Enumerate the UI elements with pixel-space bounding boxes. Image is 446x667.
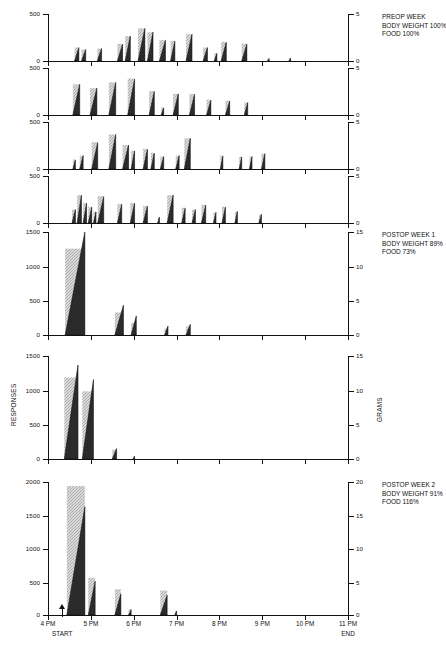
panel-annotation-line: FOOD 100%: [382, 30, 446, 39]
panel-annotation-line: FOOD 73%: [382, 248, 443, 257]
start-label: START: [37, 630, 87, 637]
panel-annotation-line: POSTOP WEEK 2: [382, 481, 443, 490]
record-traces: [0, 176, 442, 224]
x-axis-time-label: 5 PM: [71, 620, 111, 627]
panel-annotation-line: POSTOP WEEK 1: [382, 231, 443, 240]
panel-annotation: PREOP WEEKBODY WEIGHT 100%FOOD 100%: [382, 13, 446, 39]
right-axis-title: GRAMS: [376, 397, 383, 422]
chart-panel-preop-day-4: 050005: [0, 176, 442, 224]
record-traces: [0, 482, 442, 616]
x-axis-time-label: 11 PM: [328, 620, 368, 627]
x-axis-time-label: 6 PM: [114, 620, 154, 627]
end-label: END: [326, 630, 370, 637]
panel-annotation-line: BODY WEIGHT 100%: [382, 22, 446, 31]
record-traces: [0, 14, 442, 62]
start-arrow-head: [59, 604, 65, 609]
panel-annotation-line: PREOP WEEK: [382, 13, 446, 22]
x-axis-time-label: 9 PM: [242, 620, 282, 627]
panel-annotation: POSTOP WEEK 2BODY WEIGHT 91%FOOD 116%: [382, 481, 443, 507]
record-traces: [0, 122, 442, 170]
panel-annotation-line: BODY WEIGHT 89%: [382, 240, 443, 249]
left-axis-title: RESPONSES: [10, 384, 17, 426]
chart-panel-preop-day-3: 050005: [0, 122, 442, 170]
x-axis-time-label: 7 PM: [157, 620, 197, 627]
panel-annotation: POSTOP WEEK 1BODY WEIGHT 89%FOOD 73%: [382, 231, 443, 257]
x-axis-time-label: 4 PM: [28, 620, 68, 627]
chart-panel-postop-week-2: 050010001500200005101520: [0, 482, 442, 616]
record-traces: [0, 68, 442, 116]
record-traces: [0, 232, 442, 336]
chart-panel-preop-day-2: 050005: [0, 68, 442, 116]
x-axis-time-label: 8 PM: [199, 620, 239, 627]
panel-annotation-line: FOOD 116%: [382, 498, 443, 507]
x-axis-time-label: 10 PM: [285, 620, 325, 627]
chart-panel-preop-day-1: 050005: [0, 14, 442, 62]
chart-panel-postop-week-1-day-1: 050010001500051015: [0, 232, 442, 336]
panel-annotation-line: BODY WEIGHT 91%: [382, 490, 443, 499]
